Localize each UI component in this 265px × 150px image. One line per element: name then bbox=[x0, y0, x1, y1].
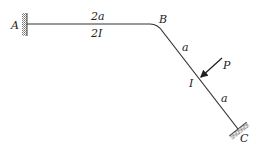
label-p: P bbox=[222, 59, 231, 72]
label-a: A bbox=[10, 19, 19, 32]
label-ab-inertia: 2I bbox=[90, 27, 103, 40]
fixed-support-a bbox=[22, 13, 27, 36]
frame-diagram: A B C 2a 2I a I a P bbox=[0, 0, 265, 150]
label-bc-lower-length: a bbox=[221, 92, 228, 105]
label-bc-upper-length: a bbox=[182, 41, 189, 54]
label-c: C bbox=[240, 132, 249, 145]
label-bc-inertia: I bbox=[188, 77, 194, 90]
label-b: B bbox=[158, 13, 167, 26]
member-bc bbox=[163, 32, 238, 129]
load-p-arrow bbox=[201, 58, 222, 77]
label-ab-length: 2a bbox=[90, 10, 105, 23]
